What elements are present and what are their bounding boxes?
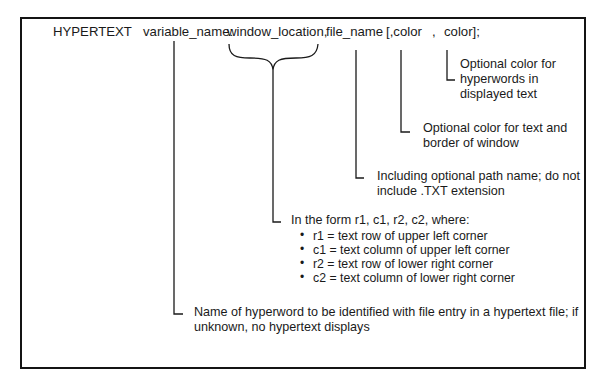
variable-name-note-line-1: Name of hyperword to be identified with … (194, 305, 578, 320)
text-color-note-line-2: border of window (423, 136, 519, 151)
bullet-icon: • (300, 256, 304, 270)
file-name-note-line-1: Including optional path name; do not (377, 169, 580, 184)
window-location-connector (273, 70, 281, 222)
param-color-hyperword: color]; (444, 25, 480, 40)
bullet-icon: • (300, 242, 304, 256)
keyword-hypertext: HYPERTEXT (53, 25, 132, 40)
hyperword-color-note-line-2: hyperwords in (460, 72, 538, 87)
param-file-name: file_name (326, 25, 383, 40)
bullet-item-c2: •c2 = text column of lower right corner (300, 271, 515, 285)
bullet-item-r2: •r2 = text row of lower right corner (300, 257, 515, 271)
hyperword-color-connector (447, 50, 455, 80)
bullet-icon: • (300, 228, 304, 242)
param-color-text: [,color (386, 25, 422, 40)
bullet-item-c1: •c1 = text column of upper left corner (300, 243, 515, 257)
param-comma: , (432, 25, 436, 40)
param-variable-name: variable_name: (143, 25, 233, 40)
hyperword-color-note-line-3: displayed text (460, 87, 537, 102)
window-location-brace (229, 44, 318, 70)
file-name-connector (356, 50, 364, 178)
bullet-icon: • (300, 270, 304, 284)
window-location-note-intro: In the form r1, c1, r2, c2, where: (291, 213, 469, 228)
window-location-bullet-list: •r1 = text row of upper left corner •c1 … (300, 229, 515, 285)
variable-name-connector (174, 41, 183, 314)
text-color-note-line-1: Optional color for text and (423, 121, 567, 136)
bullet-item-r1: •r1 = text row of upper left corner (300, 229, 515, 243)
variable-name-note-line-2: unknown, no hypertext displays (194, 320, 370, 335)
text-color-connector (401, 50, 410, 132)
param-window-location: window_location, (227, 25, 327, 40)
file-name-note-line-2: include .TXT extension (377, 184, 505, 199)
hyperword-color-note-line-1: Optional color for (460, 57, 556, 72)
